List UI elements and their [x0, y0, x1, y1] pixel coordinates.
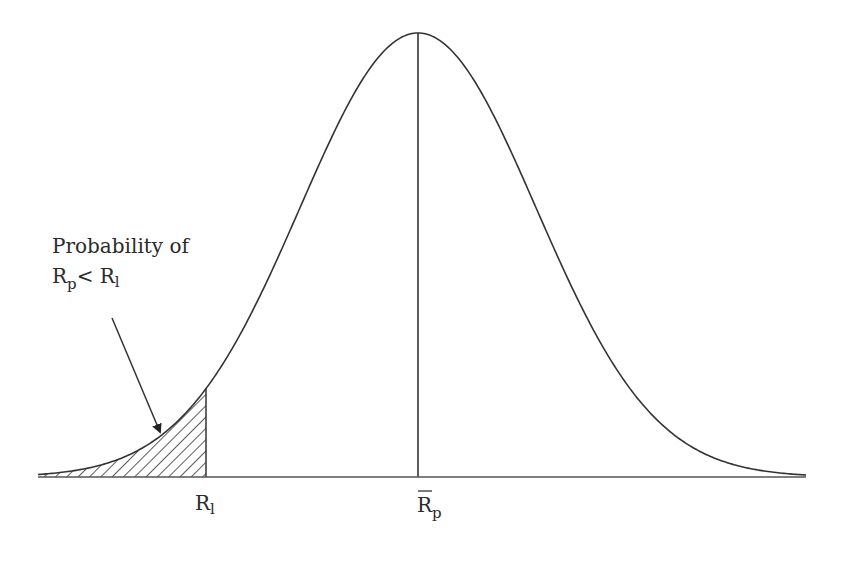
normal-distribution-diagram: Probability of Rp< Rl Rl Rp [0, 0, 848, 561]
annotation-line2: Rp< Rl [52, 264, 120, 293]
shaded-tail-region [38, 389, 206, 477]
annotation-line1: Probability of [52, 234, 191, 258]
mean-label: Rp [417, 491, 442, 522]
svg-text:Rp: Rp [417, 493, 442, 522]
svg-text:Rp< Rl: Rp< Rl [52, 264, 120, 293]
svg-text:Rl: Rl [195, 491, 215, 518]
threshold-label: Rl [195, 491, 215, 518]
annotation-arrow [112, 318, 160, 432]
